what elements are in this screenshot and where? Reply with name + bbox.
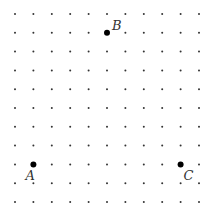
- grid-dot: [161, 13, 163, 15]
- grid-dot: [106, 88, 108, 90]
- grid-dot: [14, 145, 16, 147]
- grid-dot: [143, 182, 145, 184]
- grid-dot: [143, 163, 145, 165]
- grid-dot: [88, 13, 90, 15]
- grid-dot: [51, 145, 53, 147]
- grid-dot: [124, 32, 126, 34]
- grid-dot: [69, 32, 71, 34]
- grid-dot: [14, 126, 16, 128]
- grid-dot: [51, 126, 53, 128]
- grid-dot: [51, 69, 53, 71]
- grid-dot: [124, 88, 126, 90]
- grid-dot: [143, 51, 145, 53]
- grid-dot: [198, 88, 200, 90]
- grid-dot: [180, 182, 182, 184]
- grid-dot: [69, 51, 71, 53]
- grid-dot: [51, 182, 53, 184]
- grid-dot: [106, 163, 108, 165]
- grid-dot: [69, 201, 71, 203]
- grid-dot: [124, 69, 126, 71]
- grid-dot: [143, 13, 145, 15]
- grid-dot: [51, 88, 53, 90]
- grid-dot: [32, 107, 34, 109]
- grid-dot: [124, 163, 126, 165]
- grid-dot: [198, 51, 200, 53]
- grid-dot: [14, 201, 16, 203]
- grid-dot: [51, 201, 53, 203]
- grid-dot: [143, 69, 145, 71]
- grid-dot: [51, 51, 53, 53]
- grid-dot: [180, 126, 182, 128]
- grid-dot: [143, 201, 145, 203]
- grid-dot: [69, 107, 71, 109]
- grid-dot: [69, 69, 71, 71]
- grid-dot: [161, 88, 163, 90]
- grid-dot: [198, 182, 200, 184]
- grid-dot: [32, 126, 34, 128]
- grid-dot: [161, 163, 163, 165]
- point-marker: [104, 30, 110, 36]
- grid-dot: [32, 69, 34, 71]
- grid-dot: [124, 145, 126, 147]
- point-marker: [30, 161, 36, 167]
- grid-dot: [106, 107, 108, 109]
- point-label: C: [184, 168, 194, 183]
- grid-dot: [106, 126, 108, 128]
- grid-dot: [180, 201, 182, 203]
- grid-dot: [32, 201, 34, 203]
- grid-dot: [51, 107, 53, 109]
- grid-dot: [106, 182, 108, 184]
- grid-dot: [143, 88, 145, 90]
- point-marker: [178, 161, 184, 167]
- grid-dot: [88, 32, 90, 34]
- grid-dot: [124, 201, 126, 203]
- grid-dot: [14, 13, 16, 15]
- grid-dot: [32, 145, 34, 147]
- point-label: A: [24, 168, 34, 183]
- grid-dot: [88, 163, 90, 165]
- grid-dot: [180, 69, 182, 71]
- grid-dot: [161, 32, 163, 34]
- grid-dot: [198, 201, 200, 203]
- point-c: C: [178, 161, 194, 183]
- grid-dot: [69, 88, 71, 90]
- grid-dot: [161, 107, 163, 109]
- grid-dot: [88, 88, 90, 90]
- grid-dot: [198, 32, 200, 34]
- grid-dot: [32, 13, 34, 15]
- grid-dot: [69, 163, 71, 165]
- grid-dot: [14, 107, 16, 109]
- grid-dot: [124, 182, 126, 184]
- grid-dot: [198, 145, 200, 147]
- grid-dot: [88, 182, 90, 184]
- grid-dot: [124, 13, 126, 15]
- point-b: B: [104, 18, 122, 36]
- grid-dot: [198, 107, 200, 109]
- grid-dot: [14, 88, 16, 90]
- grid-dot: [88, 107, 90, 109]
- grid-dots: [14, 13, 200, 203]
- grid-dot: [51, 32, 53, 34]
- grid-dot: [69, 13, 71, 15]
- grid-dot: [51, 13, 53, 15]
- point-a: A: [24, 161, 36, 183]
- grid-dot: [51, 163, 53, 165]
- grid-dot: [143, 32, 145, 34]
- grid-dot: [88, 69, 90, 71]
- grid-dot: [198, 69, 200, 71]
- grid-dot: [88, 51, 90, 53]
- labeled-points: ABC: [24, 18, 193, 184]
- grid-dot: [14, 51, 16, 53]
- grid-dot: [143, 107, 145, 109]
- grid-dot: [198, 126, 200, 128]
- grid-dot: [106, 13, 108, 15]
- grid-dot: [180, 107, 182, 109]
- grid-dot: [124, 126, 126, 128]
- grid-dot: [88, 201, 90, 203]
- grid-dot: [69, 182, 71, 184]
- grid-dot: [69, 126, 71, 128]
- grid-dot: [14, 32, 16, 34]
- grid-dot: [124, 107, 126, 109]
- grid-dot: [180, 88, 182, 90]
- grid-dot: [14, 163, 16, 165]
